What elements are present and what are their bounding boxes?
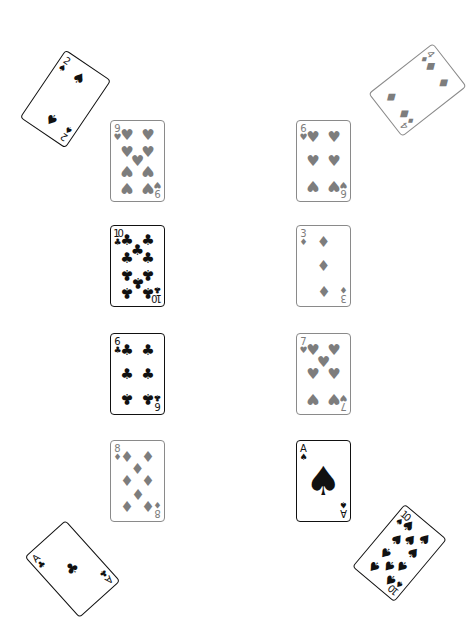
card-6-of-hearts[interactable]: 6♥6♥♥♥♥♥♥♥ [296,120,351,202]
hearts-pip-icon: ♥ [119,179,135,194]
hearts-pip-icon: ♥ [119,128,135,143]
card-4-of-diamonds[interactable]: 4♦4♦♦♦♦♦ [368,43,466,137]
diamonds-icon: ♦ [299,238,308,247]
spades-pip-icon: ♠ [41,108,63,129]
clubs-pip-icon: ♣ [140,367,156,382]
hearts-pip-icon: ♥ [305,178,321,193]
card-7-of-hearts[interactable]: 7♥7♥♥♥♥♥♥♥♥ [296,333,351,415]
hearts-pip-icon: ♥ [326,154,342,169]
card-a-of-clubs[interactable]: A♣A♣♣ [25,520,121,618]
card-index-top-left: 3♦ [299,229,308,247]
diamonds-pip-icon: ♦ [119,498,135,513]
diamonds-pip-icon: ♦ [316,235,332,250]
diamonds-icon: ♦ [339,285,348,294]
card-10-of-clubs[interactable]: 10♣10♣♣♣♣♣♣♣♣♣♣♣ [110,225,165,307]
card-index-bottom-right: A♣ [97,567,116,586]
clubs-pip-icon: ♣ [119,343,135,358]
hearts-pip-icon: ♥ [326,391,342,406]
card-rank: A [339,509,348,518]
clubs-pip-icon: ♣ [119,367,135,382]
card-rank: 3 [339,294,348,303]
card-8-of-diamonds[interactable]: 8♦8♦♦♦♦♦♦♦♦♦ [110,440,165,522]
hearts-pip-icon: ♥ [305,130,321,145]
diamonds-pip-icon: ♦ [432,73,454,95]
card-a-of-spades[interactable]: A♠A♠♠ [296,440,351,522]
clubs-icon: ♣ [36,559,49,572]
clubs-pip-icon: ♣ [119,284,135,299]
card-10-of-spades[interactable]: 10♠10♠♠♠♠♠♠♠♠♠♠♠ [352,504,447,602]
card-2-of-spades[interactable]: 2♠2♠♠♠ [20,50,111,149]
card-6-of-clubs[interactable]: 6♣6♣♣♣♣♣♣♣ [110,333,165,415]
clubs-pip-icon: ♣ [119,391,135,406]
hearts-pip-icon: ♥ [305,367,321,382]
card-index-top-left: A♣ [30,552,49,571]
clubs-pip-icon: ♣ [140,251,156,266]
hearts-pip-icon: ♥ [119,162,135,177]
hearts-pip-icon: ♥ [326,367,342,382]
spades-pip-icon: ♠ [68,68,90,89]
clubs-pip-icon: ♣ [140,391,156,406]
clubs-pip-icon: ♣ [119,251,135,266]
diamonds-pip-icon: ♦ [316,259,332,274]
spades-icon: ♠ [56,62,68,74]
hearts-pip-icon: ♥ [305,154,321,169]
hearts-pip-icon: ♥ [140,179,156,194]
card-3-of-diamonds[interactable]: 3♦3♦♦♦♦ [296,225,351,307]
card-index-top-left: 2♠ [58,123,76,143]
card-9-of-hearts[interactable]: 9♥9♥♥♥♥♥♥♥♥♥♥ [110,120,165,202]
clubs-pip-icon: ♣ [140,343,156,358]
hearts-pip-icon: ♥ [305,391,321,406]
diamonds-pip-icon: ♦ [316,283,332,298]
hearts-pip-icon: ♥ [140,162,156,177]
hearts-pip-icon: ♥ [326,130,342,145]
hearts-pip-icon: ♥ [326,178,342,193]
diamonds-pip-icon: ♦ [140,498,156,513]
card-index-bottom-right: 2♠ [56,55,74,75]
diamonds-pip-icon: ♦ [381,86,403,108]
card-index-bottom-right: 3♦ [339,285,348,303]
clubs-pip-icon: ♣ [62,558,84,580]
clubs-pip-icon: ♣ [140,284,156,299]
hearts-pip-icon: ♥ [140,128,156,143]
spades-pip-icon: ♠ [304,461,344,501]
